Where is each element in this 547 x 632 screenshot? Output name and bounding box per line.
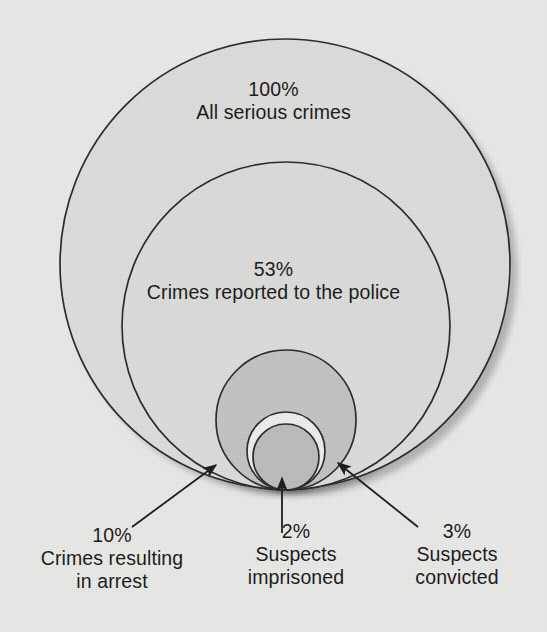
label-arrest-text-line1: Crimes resulting — [12, 547, 212, 570]
label-reported-percent: 53% — [0, 258, 547, 281]
arrow-line-convicted — [338, 463, 418, 527]
label-imprisoned-text-line2: imprisoned — [232, 566, 360, 589]
label-suspects-convicted: 3% Suspects convicted — [392, 520, 522, 589]
label-crimes-reported: 53% Crimes reported to the police — [0, 258, 547, 304]
label-convicted-text-line2: convicted — [392, 566, 522, 589]
label-suspects-imprisoned: 2% Suspects imprisoned — [232, 520, 360, 589]
label-all-serious-crimes: 100% All serious crimes — [0, 78, 547, 124]
label-crimes-arrest: 10% Crimes resulting in arrest — [12, 524, 212, 593]
label-convicted-percent: 3% — [392, 520, 522, 543]
label-arrest-text-line2: in arrest — [12, 570, 212, 593]
arrow-line-arrest — [132, 465, 216, 527]
nested-circles-figure: 100% All serious crimes 53% Crimes repor… — [0, 0, 547, 632]
label-convicted-text-line1: Suspects — [392, 543, 522, 566]
label-reported-text: Crimes reported to the police — [0, 281, 547, 304]
label-all-text: All serious crimes — [0, 101, 547, 124]
circle-suspects-imprisoned — [253, 424, 319, 490]
label-imprisoned-percent: 2% — [232, 520, 360, 543]
label-all-percent: 100% — [0, 78, 547, 101]
label-arrest-percent: 10% — [12, 524, 212, 547]
label-imprisoned-text-line1: Suspects — [232, 543, 360, 566]
